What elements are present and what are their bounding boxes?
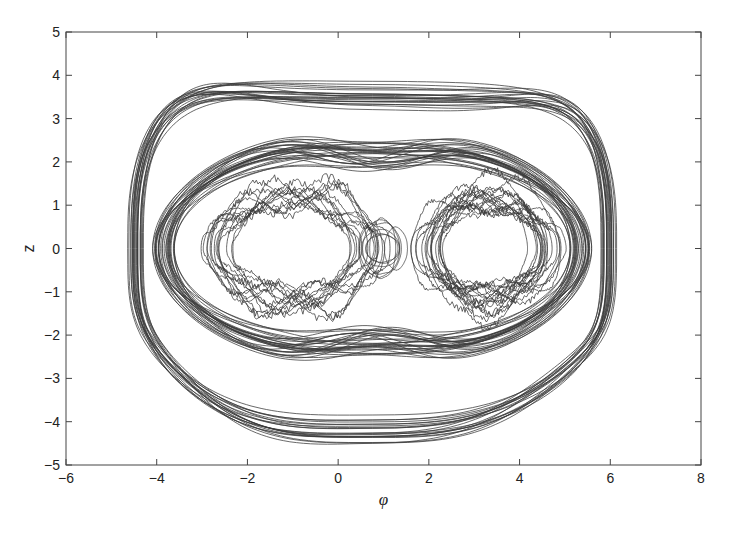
phase-space-chart: −6−4−202468 −5−4−3−2−1012345 φ z xyxy=(0,0,733,538)
y-tick-label: 1 xyxy=(52,197,60,213)
x-tick-label: −6 xyxy=(58,470,74,486)
y-tick-label: −2 xyxy=(44,327,60,343)
y-tick-label: 5 xyxy=(52,24,60,40)
x-tick-label: −2 xyxy=(239,470,255,486)
x-tick-label: 2 xyxy=(425,470,433,486)
y-axis-label: z xyxy=(20,245,37,253)
y-tick-label: −4 xyxy=(44,414,60,430)
trajectory-path xyxy=(170,144,574,354)
y-tick-label: −5 xyxy=(44,457,60,473)
y-tick-label: 4 xyxy=(52,67,60,83)
trajectory-path xyxy=(141,97,604,415)
trajectory-path xyxy=(168,148,576,349)
x-axis-label: φ xyxy=(379,490,388,509)
trajectory-path xyxy=(174,162,570,335)
trajectory-path xyxy=(174,156,570,342)
plot-frame xyxy=(66,32,701,465)
trajectory-lines xyxy=(128,81,617,444)
trajectory-path xyxy=(166,152,578,344)
x-tick-label: 6 xyxy=(606,470,614,486)
y-tick-label: 3 xyxy=(52,111,60,127)
y-tick-label: 0 xyxy=(52,241,60,257)
trajectory-path xyxy=(158,143,586,354)
trajectory-path xyxy=(167,142,577,356)
y-tick-label: −3 xyxy=(44,370,60,386)
x-tick-label: −4 xyxy=(149,470,165,486)
x-tick-label: 4 xyxy=(516,470,524,486)
x-tick-label: 8 xyxy=(697,470,705,486)
x-tick-label: 0 xyxy=(334,470,342,486)
y-tick-label: −1 xyxy=(44,284,60,300)
y-tick-label: 2 xyxy=(52,154,60,170)
trajectory-path xyxy=(174,139,570,358)
